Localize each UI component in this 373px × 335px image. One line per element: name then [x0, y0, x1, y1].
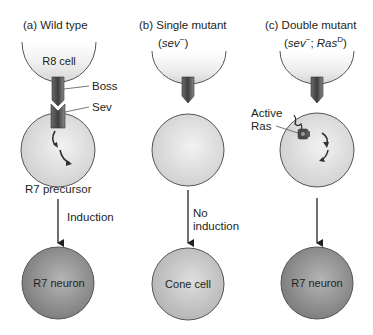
no-induction-label: No induction — [193, 207, 239, 233]
r7-precursor-label: R7 precursor — [25, 183, 91, 196]
sev-label: Sev — [92, 101, 112, 114]
boss-label: Boss — [92, 80, 118, 93]
panel-b-title: (b) Single mutant — [139, 19, 227, 32]
cone-cell-label: Cone cell — [165, 278, 211, 290]
active-ras-label: Active Ras — [251, 107, 282, 133]
panel-c-genotype: (sev−; RasD) — [284, 33, 347, 50]
r7-neuron-label: R7 neuron — [33, 277, 84, 289]
induction-label: Induction — [67, 211, 114, 224]
precursor-cell — [152, 114, 224, 186]
boss-protein-icon — [182, 77, 194, 103]
panel-c-title: (c) Double mutant — [265, 19, 356, 32]
precursor-cell — [280, 113, 354, 187]
panel-a-title: (a) Wild type — [23, 19, 88, 32]
sev-receptor-icon — [51, 104, 65, 128]
panel-b-genotype: (sev−) — [158, 33, 188, 50]
r7-neuron-label: R7 neuron — [291, 277, 342, 289]
boss-protein-icon — [52, 77, 64, 106]
boss-protein-icon — [311, 77, 323, 103]
r8-cell-label: R8 cell — [42, 55, 76, 67]
